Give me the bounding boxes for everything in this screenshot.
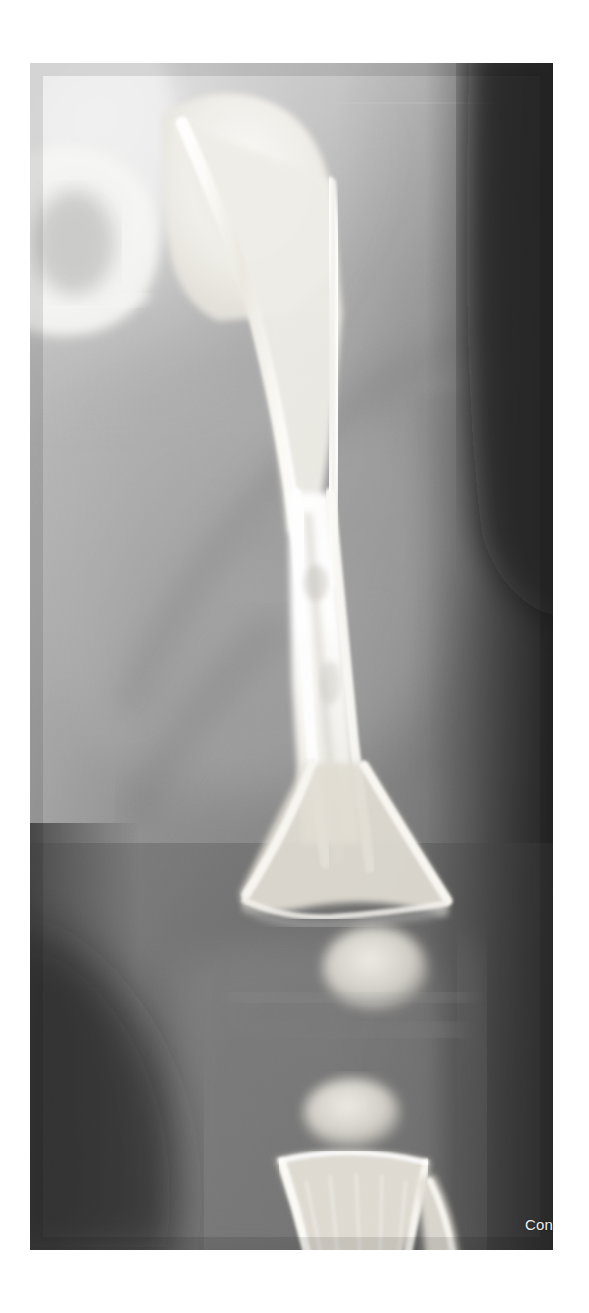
page-root: Con	[0, 0, 589, 1313]
film-grain-overlay-2	[30, 63, 553, 1250]
xray-image	[30, 63, 553, 1250]
xray-figure: Con	[30, 63, 553, 1250]
